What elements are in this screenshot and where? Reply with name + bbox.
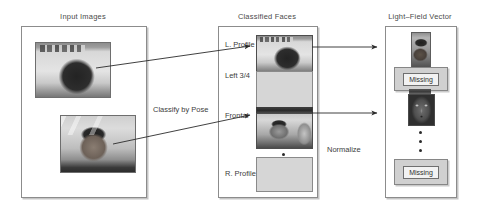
- arrow-input1-to-l-profile: [96, 46, 250, 68]
- figure-canvas: Input Images Classified Faces Light–Fiel…: [0, 0, 479, 210]
- arrow-input2-to-frontal: [113, 115, 250, 144]
- arrow-layer: [0, 0, 479, 210]
